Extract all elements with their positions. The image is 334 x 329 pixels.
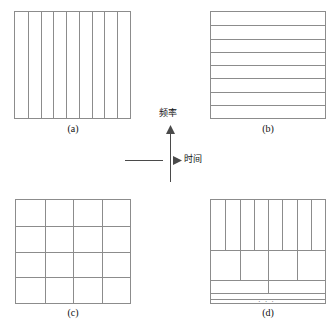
grid-line-vertical: [104, 12, 105, 118]
grid-line-vertical: [268, 280, 269, 293]
panel-a-caption: (a): [53, 123, 93, 135]
grid-line-vertical: [41, 12, 42, 118]
panel-b-caption: (b): [248, 123, 288, 135]
grid-line-vertical: [254, 200, 255, 250]
frequency-axis-line: [170, 132, 171, 182]
panel-d-caption: (d): [248, 307, 288, 319]
panel-c-uniform-tiling: [15, 199, 131, 304]
time-arrow-icon: [173, 156, 182, 165]
panel-a-time-sampling: [14, 11, 131, 119]
wavelet-band-separator: [211, 280, 325, 281]
grid-line-vertical: [311, 200, 312, 250]
grid-line-horizontal: [211, 25, 325, 26]
wavelet-band: [211, 200, 325, 250]
grid-line-horizontal: [211, 65, 325, 66]
grid-line-horizontal: [211, 78, 325, 79]
grid-line-vertical: [268, 200, 269, 250]
frequency-axis-label: 频率: [159, 108, 177, 119]
grid-line-vertical: [268, 250, 269, 280]
wavelet-band: [211, 280, 325, 293]
wavelet-band-separator: [211, 293, 325, 294]
time-axis-label: 时间: [184, 154, 202, 165]
panel-b-frequency-sampling: [210, 11, 326, 119]
grid-line-horizontal: [211, 39, 325, 40]
grid-line-vertical: [297, 200, 298, 250]
grid-line-horizontal: [211, 105, 325, 106]
grid-line-horizontal: [16, 252, 130, 253]
grid-line-vertical: [240, 200, 241, 250]
grid-line-vertical: [53, 12, 54, 118]
grid-line-horizontal: [211, 52, 325, 53]
grid-line-vertical: [66, 12, 67, 118]
panel-d-wavelet-tiling: · · ·: [210, 199, 326, 304]
grid-line-vertical: [240, 250, 241, 280]
grid-line-horizontal: [211, 92, 325, 93]
ellipsis-dots: · · ·: [258, 298, 275, 306]
grid-line-horizontal: [16, 277, 130, 278]
frequency-arrow-icon: [166, 125, 175, 134]
time-frequency-tiling-figure: (a) (b) 频率 时间 (c) · · · (d): [0, 0, 334, 329]
panel-c-caption: (c): [53, 307, 93, 319]
grid-line-vertical: [28, 12, 29, 118]
wavelet-band-separator: [211, 250, 325, 251]
grid-line-horizontal: [16, 226, 130, 227]
grid-line-vertical: [117, 12, 118, 118]
grid-line-vertical: [297, 250, 298, 280]
grid-line-vertical: [92, 12, 93, 118]
grid-line-vertical: [225, 200, 226, 250]
time-axis-line: [125, 160, 163, 161]
grid-line-vertical: [282, 200, 283, 250]
grid-line-vertical: [79, 12, 80, 118]
wavelet-band: [211, 250, 325, 280]
